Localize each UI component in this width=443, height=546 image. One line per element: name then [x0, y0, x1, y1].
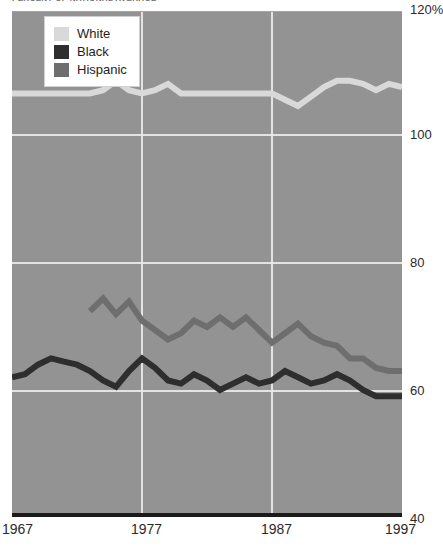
x-tick-1987: 1987 — [261, 521, 292, 537]
legend-swatch-white — [54, 27, 69, 41]
y-tick-120: 120% — [410, 2, 443, 17]
y-tick-60: 60 — [410, 383, 424, 398]
chart-legend: White Black Hispanic — [44, 16, 140, 87]
y-tick-80: 80 — [410, 255, 424, 270]
legend-label-black: Black — [77, 45, 109, 59]
x-axis-line — [12, 513, 402, 517]
legend-label-hispanic: Hispanic — [77, 63, 127, 77]
legend-swatch-hispanic — [54, 63, 69, 77]
chart-title: PERCENT OF NATIONAL AVERAGE — [12, 0, 157, 2]
x-tick-1967: 1967 — [2, 521, 33, 537]
legend-item-white: White — [54, 25, 127, 42]
plot-area — [12, 12, 402, 513]
x-tick-1997: 1997 — [385, 521, 416, 537]
legend-item-black: Black — [54, 43, 127, 60]
series-lines — [12, 12, 402, 513]
legend-swatch-black — [54, 45, 69, 59]
series-line-black — [12, 358, 402, 396]
legend-label-white: White — [77, 27, 110, 41]
legend-item-hispanic: Hispanic — [54, 61, 127, 78]
x-tick-1977: 1977 — [131, 521, 162, 537]
y-tick-100: 100 — [410, 127, 432, 142]
